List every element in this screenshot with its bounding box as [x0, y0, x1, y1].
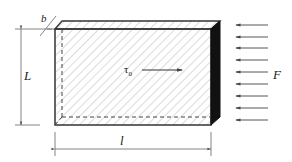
height-label: L: [23, 68, 31, 83]
thickness-label: b: [41, 12, 47, 24]
block-front-face: [55, 29, 211, 125]
block-side-face: [211, 21, 220, 125]
length-label: l: [120, 133, 124, 148]
force-arrows: [236, 25, 268, 120]
length-dimension: [55, 132, 211, 156]
block-top-face: [55, 21, 220, 29]
force-label: F: [272, 67, 282, 82]
shear-block-diagram: τ0 F L l b: [0, 0, 292, 162]
height-dimension: [15, 29, 52, 125]
